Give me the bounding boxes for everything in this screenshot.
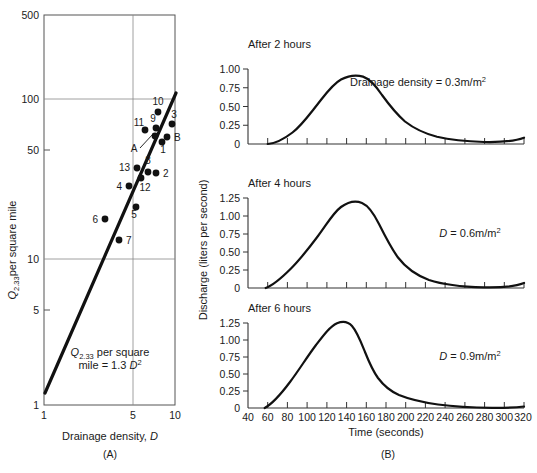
- panel-a-equation-line2: mile = 1.3 D2: [78, 358, 141, 371]
- data-point-7: [116, 237, 123, 244]
- chart-top-title: After 2 hours: [248, 38, 311, 50]
- chart-top-annotation: Drainage density = 0.3m/m2: [350, 75, 486, 88]
- point-label-B: B: [174, 132, 181, 143]
- panel-b-xtick-80: 80: [282, 411, 294, 423]
- chart-middle-annotation: D = 0.6m/m2: [439, 226, 500, 239]
- panel-a-ytick-500: 500: [21, 9, 39, 21]
- leader-line-A: [140, 134, 153, 148]
- panel-a-x-axis-title: Drainage density, D: [62, 430, 158, 442]
- chart-middle-ylabel-4: 0.50: [220, 246, 241, 258]
- panel-b-xtick-320: 320: [514, 411, 532, 423]
- panel-a-xtick-5: 5: [130, 409, 136, 421]
- chart-bottom-ylabel-5: 0.25: [220, 385, 241, 397]
- svg-text:Q2.33per square mile: Q2.33per square mile: [6, 201, 21, 300]
- panel-a-x-title-symbol: D: [150, 430, 158, 442]
- panel-b-xtick-280: 280: [476, 411, 494, 423]
- panel-a-label: (A): [103, 448, 117, 460]
- panel-b-xtick-100: 100: [298, 411, 316, 423]
- point-label-1: 1: [160, 144, 166, 155]
- panel-b-chart-middle: After 4 hours 1.25 1.00 0.75 0.50 0.25 0: [220, 177, 524, 294]
- chart-middle-curve: [266, 202, 524, 288]
- panel-a-xtick-10: 10: [169, 409, 181, 421]
- data-point-8: [145, 169, 152, 176]
- panel-b-x-tick-labels: 40 60 80 100 120 140 160 180 200 220 240…: [242, 411, 532, 423]
- point-label-5: 5: [131, 209, 137, 220]
- point-label-3: 3: [171, 109, 177, 120]
- panel-b-xtick-260: 260: [456, 411, 474, 423]
- point-label-2: 2: [163, 168, 169, 179]
- point-label-8: 8: [145, 155, 151, 166]
- chart-bottom-curve: [265, 322, 524, 408]
- chart-bottom-title: After 6 hours: [248, 302, 311, 314]
- point-label-7: 7: [126, 235, 132, 246]
- chart-bottom-ylabel-6: 0: [234, 402, 240, 414]
- figure-container: 500 100 50 10 5 1 1 5 10 Q2.33per square…: [0, 0, 537, 473]
- panel-b: Discharge (liters per second) After 2 ho…: [197, 38, 532, 460]
- data-point-13: [134, 165, 141, 172]
- point-label-11: 11: [134, 117, 145, 128]
- data-point-B: [164, 134, 171, 141]
- panel-b-xtick-180: 180: [377, 411, 395, 423]
- point-label-10: 10: [152, 96, 164, 107]
- figure-svg: 500 100 50 10 5 1 1 5 10 Q2.33per square…: [0, 0, 537, 473]
- panel-b-xtick-240: 240: [436, 411, 454, 423]
- panel-a-y-axis-title: Q2.33per square mile: [6, 201, 21, 300]
- point-label-9: 9: [150, 113, 156, 124]
- chart-middle-ylabel-1: 1.25: [220, 192, 241, 204]
- panel-b-xtick-40: 40: [242, 411, 254, 423]
- panel-b-xtick-220: 220: [417, 411, 435, 423]
- panel-a-ytick-1: 1: [33, 399, 39, 411]
- panel-a-y-symbol-sub: 2.33: [12, 276, 21, 291]
- panel-b-label: (B): [381, 448, 395, 460]
- chart-bottom-y-ticks: [243, 323, 248, 391]
- panel-a-x-title-prefix: Drainage density,: [62, 430, 147, 442]
- chart-top-ylabel-4: 0.25: [220, 119, 241, 131]
- point-label-A: A: [131, 143, 138, 154]
- data-point-4: [126, 183, 133, 190]
- panel-a: 500 100 50 10 5 1 1 5 10 Q2.33per square…: [6, 9, 181, 460]
- data-point-3: [169, 121, 176, 128]
- data-point-12: [138, 175, 145, 182]
- panel-b-xtick-200: 200: [397, 411, 415, 423]
- panel-a-ytick-10: 10: [27, 253, 39, 265]
- panel-a-ytick-100: 100: [21, 93, 39, 105]
- panel-a-ytick-50: 50: [27, 144, 39, 156]
- panel-a-xtick-1: 1: [41, 409, 47, 421]
- data-point-2: [153, 170, 160, 177]
- point-label-6: 6: [92, 214, 98, 225]
- chart-bottom-ylabel-3: 0.75: [220, 351, 241, 363]
- chart-bottom-ylabel-2: 1.00: [220, 334, 241, 346]
- point-label-4: 4: [116, 181, 122, 192]
- panel-b-xtick-120: 120: [318, 411, 336, 423]
- panel-b-xtick-60: 60: [262, 411, 274, 423]
- data-point-9: [153, 125, 160, 132]
- chart-top-ylabel-1: 1.00: [220, 63, 241, 75]
- panel-b-xtick-300: 300: [496, 411, 514, 423]
- chart-top-ylabel-2: 0.75: [220, 82, 241, 94]
- data-point-6: [102, 216, 109, 223]
- chart-middle-title: After 4 hours: [248, 177, 311, 189]
- chart-middle-ylabel-3: 0.75: [220, 228, 241, 240]
- chart-top-ylabel-5: 0: [234, 138, 240, 150]
- chart-middle-ylabel-6: 0: [234, 282, 240, 294]
- chart-bottom-ylabel-4: 0.50: [220, 368, 241, 380]
- chart-middle-ylabel-2: 1.00: [220, 210, 241, 222]
- data-point-A: [152, 133, 159, 140]
- point-label-13: 13: [119, 162, 131, 173]
- chart-bottom-ylabel-1: 1.25: [220, 317, 241, 329]
- panel-b-chart-bottom: After 6 hours 1.25 1.00 0.75 0.50 0.25 0: [220, 302, 532, 438]
- chart-bottom-annotation: D = 0.9m/m2: [439, 349, 500, 362]
- panel-b-y-axis-title: Discharge (liters per second): [197, 180, 209, 321]
- panel-b-x-axis-title: Time (seconds): [348, 426, 423, 438]
- panel-a-ytick-5: 5: [33, 304, 39, 316]
- point-label-12: 12: [139, 182, 151, 193]
- chart-middle-ylabel-5: 0.25: [220, 264, 241, 276]
- chart-middle-y-ticks: [243, 198, 248, 270]
- panel-b-chart-top: After 2 hours 1.00 0.75 0.50 0.25 0: [220, 38, 524, 150]
- chart-top-ylabel-3: 0.50: [220, 101, 241, 113]
- svg-text:Discharge (liters per second): Discharge (liters per second): [197, 180, 209, 321]
- panel-a-y-title-text: per square mile: [6, 201, 18, 277]
- panel-b-xtick-140: 140: [338, 411, 356, 423]
- panel-b-xtick-160: 160: [358, 411, 376, 423]
